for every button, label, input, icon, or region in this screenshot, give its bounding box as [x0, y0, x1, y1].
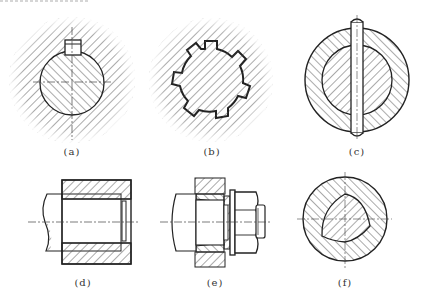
bolt-end: [256, 205, 265, 238]
figure-label-c: (c): [349, 146, 365, 157]
figure-d-interference-fit: [28, 180, 140, 264]
hub-upper-section: [62, 180, 131, 199]
figure-label-b: (b): [203, 146, 220, 157]
hub-lower-section: [62, 243, 131, 264]
figure-label-d: (d): [74, 277, 91, 288]
figure-label-a: (a): [64, 146, 81, 157]
figure-label-f: (f): [338, 277, 353, 288]
figure-e-expansion-sleeve: [160, 178, 272, 267]
figure-c-pin-connection: [305, 15, 409, 140]
nut: [235, 192, 258, 253]
figure-f-profile-connection: [297, 172, 392, 268]
hub-upper-section: [195, 178, 225, 194]
key: [65, 40, 81, 55]
figure-label-e: (e): [207, 277, 224, 288]
washer: [230, 190, 235, 255]
figure-b-spline-connection: [149, 18, 273, 142]
figure-a-key-connection: [9, 17, 135, 143]
shaft: [172, 194, 196, 251]
hub-lower-section: [195, 252, 225, 267]
